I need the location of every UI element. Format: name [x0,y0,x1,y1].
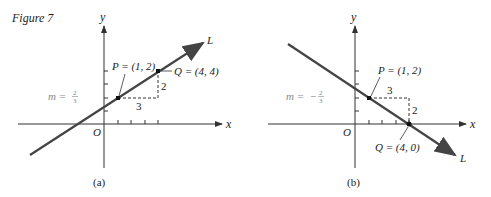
origin-label: O [93,126,101,138]
point-p [367,96,371,100]
point-p-leader [371,77,380,96]
x-axis-label: x [469,117,476,131]
svg-text:2: 2 [319,89,323,97]
point-q-label: Q = (4, 4) [174,65,219,78]
point-p [116,96,120,100]
svg-text:3: 3 [319,97,323,105]
y-axis-label: y [350,10,357,24]
svg-text:m =: m = [286,90,304,102]
rise-label: 2 [161,80,167,92]
point-q-leader [400,127,408,140]
slope-label: m = 2 3 [48,89,78,105]
panel-b: x y O L 3 2 P = (1, 2) Q = (4, 0) m = [268,10,476,189]
figure-canvas: Figure 7 x y O L 3 2 [0,0,491,197]
point-p-label: P = (1, 2) [377,64,422,77]
svg-text:m =: m = [48,90,66,102]
point-p-leader [119,74,125,96]
caption-b: (b) [347,176,360,189]
x-ticks [118,120,158,124]
panel-a: x y O L 3 2 P = (1, 2) [18,10,232,189]
y-axis-label: y [99,10,106,24]
line-label: L [206,34,213,46]
line-label: L [459,152,466,164]
point-p-label: P = (1, 2) [111,60,156,73]
figure-title: Figure 7 [11,11,54,25]
origin-label: O [343,126,351,138]
point-q [156,69,160,73]
caption-a: (a) [93,176,106,189]
run-label: 3 [136,100,142,112]
slope-label: m = − 2 3 [286,89,324,105]
svg-text:3: 3 [73,97,77,105]
point-q [407,122,412,127]
x-axis-label: x [225,117,232,131]
run-label: 3 [387,84,393,96]
point-q-label: Q = (4, 0) [375,141,420,154]
rise-label: 2 [412,104,418,116]
svg-text:−: − [310,90,316,102]
svg-text:2: 2 [73,89,77,97]
